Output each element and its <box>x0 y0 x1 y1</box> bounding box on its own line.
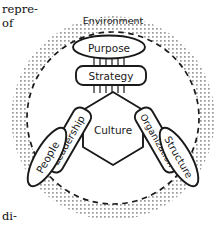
node-culture-label: Culture <box>94 124 132 136</box>
body-text-fragment-top-1: repre- <box>2 3 38 17</box>
body-text-fragment-top-2: of <box>2 17 13 31</box>
node-strategy[interactable]: Strategy <box>76 66 146 85</box>
node-purpose[interactable]: Purpose <box>73 36 145 59</box>
body-text-fragment-bottom: di- <box>2 210 17 224</box>
environment-label: Environment <box>83 15 144 26</box>
diagram-svg: Environment <box>0 0 222 231</box>
figure-canvas: Environment <box>0 0 222 231</box>
node-strategy-label: Strategy <box>89 70 134 82</box>
node-purpose-label: Purpose <box>88 42 130 54</box>
